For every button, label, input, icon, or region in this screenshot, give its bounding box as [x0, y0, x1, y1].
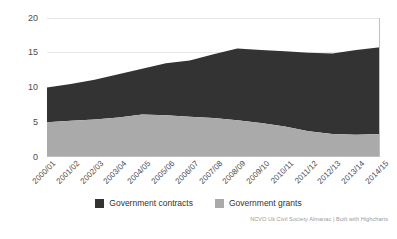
- area-chart: 20 15 10 5 0 2000/012001/022002/032003/0…: [0, 0, 397, 239]
- legend-item-government-contracts[interactable]: Government contracts: [95, 198, 193, 208]
- legend-swatch-icon: [95, 199, 104, 208]
- y-axis-tick-label: 5: [4, 117, 38, 127]
- legend-label: Government grants: [229, 198, 302, 208]
- y-axis-tick-label: 0: [4, 152, 38, 162]
- legend-swatch-icon: [215, 199, 224, 208]
- legend: Government contracts Government grants: [0, 198, 397, 208]
- x-axis: 2000/012001/022002/032003/042004/052005/…: [47, 159, 380, 201]
- legend-item-government-grants[interactable]: Government grants: [215, 198, 302, 208]
- y-axis-tick-label: 10: [4, 82, 38, 92]
- legend-label: Government contracts: [109, 198, 193, 208]
- chart-credit[interactable]: NCVO Uk Civil Society Almanac | Built wi…: [250, 216, 388, 222]
- y-axis-tick-label: 20: [4, 13, 38, 23]
- plot-area: [47, 18, 380, 157]
- y-axis-tick-label: 15: [4, 47, 38, 57]
- series-canvas: [47, 18, 380, 157]
